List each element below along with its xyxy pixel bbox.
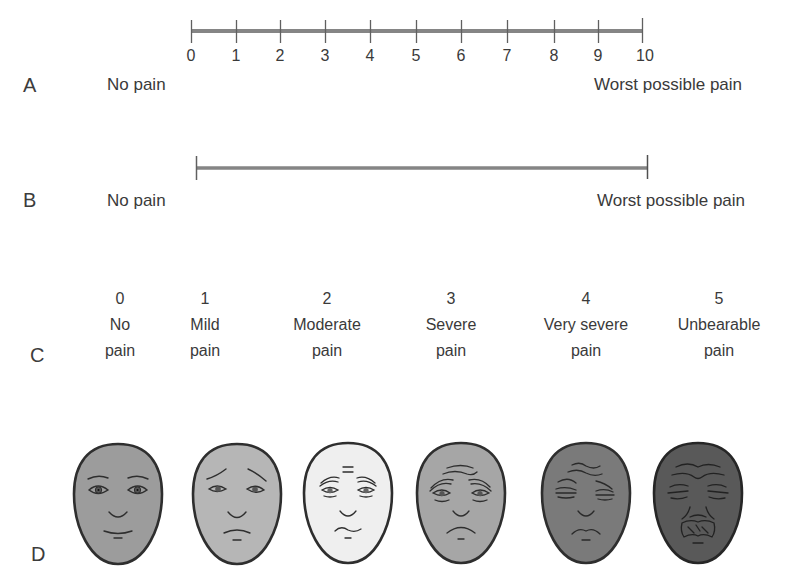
- face-unbearable-pain-icon: [654, 443, 742, 563]
- face-severe-pain-icon: [417, 443, 505, 563]
- face-moderate-pain-icon: [304, 443, 392, 563]
- faces-row: [0, 0, 797, 585]
- face-mild-pain-icon: [193, 444, 281, 564]
- face-very-severe-pain-icon: [542, 443, 630, 563]
- face-no-pain-icon: [74, 444, 162, 564]
